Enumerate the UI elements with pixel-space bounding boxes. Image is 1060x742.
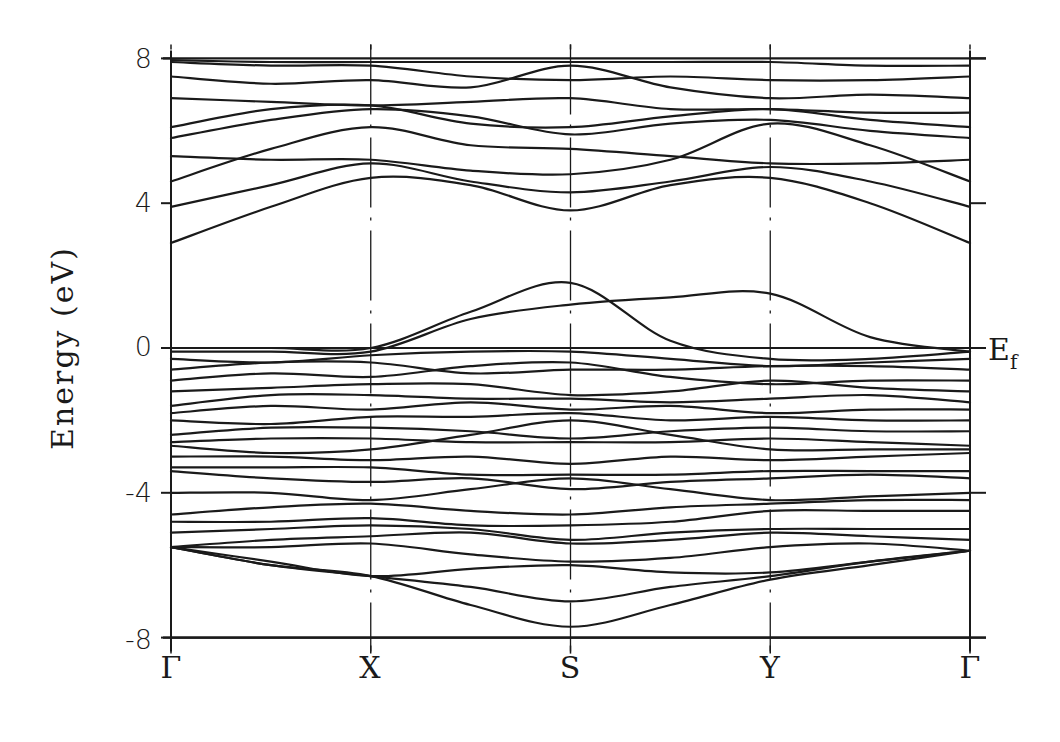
ytick-neg8: -8 bbox=[92, 624, 152, 655]
y-axis-label: Energy (eV) bbox=[45, 246, 80, 450]
xtick-x: X bbox=[350, 650, 390, 685]
band-structure-plot bbox=[0, 0, 1060, 742]
fermi-level-label: Ef bbox=[988, 332, 1017, 372]
ytick-4: 4 bbox=[92, 187, 152, 218]
ytick-neg4: -4 bbox=[92, 477, 152, 508]
ytick-0: 0 bbox=[92, 331, 152, 362]
xtick-gamma-end: Γ bbox=[950, 650, 990, 685]
fermi-label-sub: f bbox=[1010, 350, 1017, 374]
fermi-label-main: E bbox=[988, 332, 1010, 367]
xtick-s: S bbox=[550, 650, 590, 685]
xtick-gamma-start: Γ bbox=[151, 650, 191, 685]
xtick-y: Y bbox=[750, 650, 790, 685]
ytick-8: 8 bbox=[92, 43, 152, 74]
